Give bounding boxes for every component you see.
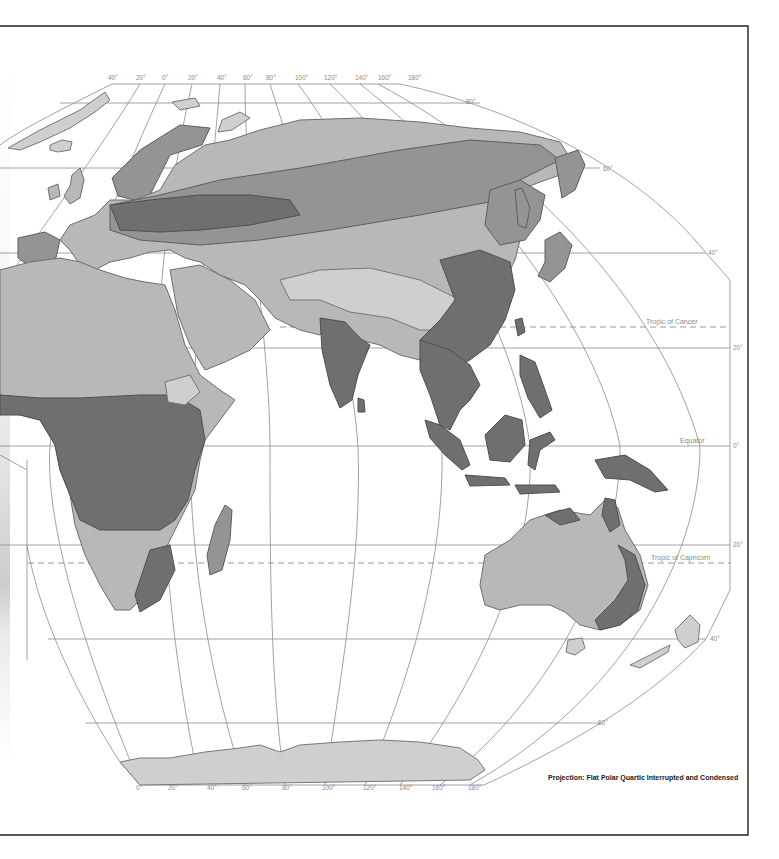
bottom-lon-label: 20°: [168, 784, 178, 791]
bottom-lon-label: 60°: [242, 784, 252, 791]
borneo: [485, 415, 525, 462]
bottom-lon-label: 120°: [363, 784, 377, 791]
lat-label-40n: 40°: [708, 249, 718, 256]
top-lon-label: 20°: [136, 74, 146, 81]
bottom-lon-label: 100°: [322, 784, 336, 791]
sri-lanka: [358, 398, 365, 412]
japan: [538, 232, 572, 282]
top-lon-label: 0°: [162, 74, 169, 81]
great-britain: [64, 168, 84, 204]
top-lon-label: 40°: [217, 74, 227, 81]
svalbard: [172, 98, 200, 110]
lesser-sunda-islands: [515, 485, 560, 494]
lat-label-40s: 40°: [710, 635, 720, 642]
madagascar: [207, 505, 232, 575]
top-lon-label: 20°: [188, 74, 198, 81]
ireland: [48, 184, 60, 200]
bottom-lon-label: 0°: [136, 784, 143, 791]
bottom-lon-label: 140°: [399, 784, 413, 791]
equator-label: Equator: [680, 437, 705, 445]
kamchatka: [555, 150, 585, 198]
lat-label-80n: 80°: [466, 98, 476, 105]
top-longitude-labels: 40° 20° 0° 20° 40° 60° 80° 100° 120° 140…: [108, 74, 422, 81]
top-lon-label: 160°: [378, 74, 392, 81]
sulawesi: [528, 432, 555, 470]
top-lon-label: 40°: [108, 74, 118, 81]
taiwan: [515, 318, 525, 336]
lat-label-20s: 20°: [733, 541, 743, 548]
lat-label-60s: 60°: [598, 719, 608, 726]
lat-label-20n: 20°: [733, 344, 743, 351]
projection-note: Projection: Flat Polar Quartic Interrupt…: [548, 774, 738, 782]
new-guinea: [595, 455, 668, 492]
top-lon-label: 100°: [295, 74, 309, 81]
tropic-of-capricorn-label: Tropic of Capricorn: [651, 554, 710, 562]
antarctica: [120, 740, 485, 785]
top-lon-label: 180°: [408, 74, 422, 81]
philippines: [520, 355, 552, 418]
new-zealand-north-island: [675, 615, 700, 648]
iceland: [50, 140, 72, 152]
central-africa-forest: [0, 395, 205, 530]
bottom-lon-label: 40°: [207, 784, 217, 791]
bottom-lon-label: 160°: [432, 784, 446, 791]
novaya-zemlya: [218, 112, 250, 132]
bottom-lon-label: 80°: [282, 784, 292, 791]
top-lon-label: 60°: [243, 74, 253, 81]
new-zealand-south-island: [630, 645, 670, 668]
top-lon-label: 140°: [355, 74, 369, 81]
tropic-of-cancer-label: Tropic of Cancer: [646, 318, 698, 326]
boundary-west-notch: [0, 455, 27, 470]
tasmania: [566, 638, 585, 655]
lat-label-0: 0°: [733, 442, 740, 449]
java: [465, 475, 510, 486]
lat-label-60n: 60°: [603, 165, 613, 172]
top-lon-label: 120°: [324, 74, 338, 81]
landmasses: [0, 92, 700, 785]
meridian-40w: [0, 84, 112, 145]
top-lon-label: 80°: [266, 74, 276, 81]
map-canvas: 40° 20° 0° 20° 40° 60° 80° 100° 120° 140…: [0, 0, 779, 859]
bottom-lon-label: 180°: [468, 784, 482, 791]
